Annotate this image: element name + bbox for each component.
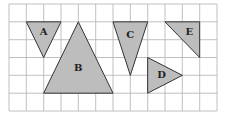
triangle-grid-diagram: ABCDE <box>0 0 225 119</box>
grid-lines <box>9 4 217 111</box>
triangle-label: E <box>185 26 193 37</box>
triangle-label: D <box>157 69 166 80</box>
triangle-label: C <box>126 29 134 40</box>
triangle-label: B <box>74 62 82 73</box>
triangle-c: C <box>113 22 148 76</box>
triangle-label: A <box>39 26 48 37</box>
